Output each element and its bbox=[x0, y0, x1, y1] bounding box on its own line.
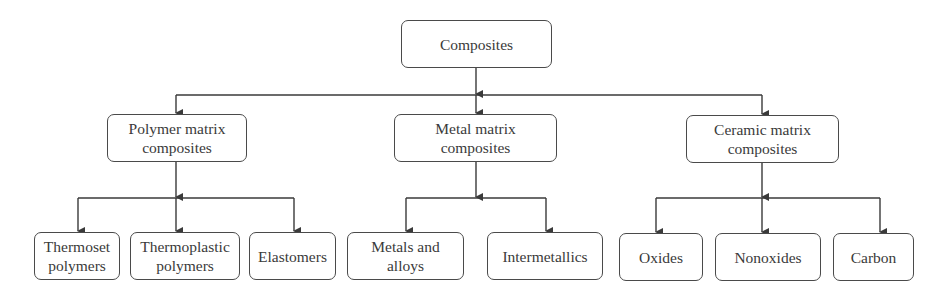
leaf-carbon: Carbon bbox=[833, 233, 914, 281]
leaf-label: Thermoset polymers bbox=[44, 237, 110, 275]
leaf-intermetallics: Intermetallics bbox=[487, 232, 603, 280]
leaf-label: Oxides bbox=[639, 248, 683, 267]
node-polymer-matrix-composites: Polymer matrix composites bbox=[107, 114, 247, 162]
node-metal-matrix-composites: Metal matrix composites bbox=[394, 114, 557, 162]
leaf-label: Carbon bbox=[851, 248, 897, 267]
root-node-label: Composites bbox=[440, 35, 513, 54]
leaf-label: Nonoxides bbox=[734, 248, 801, 267]
node-label: Ceramic matrix composites bbox=[714, 120, 811, 158]
node-label: Metal matrix composites bbox=[435, 119, 516, 157]
leaf-thermoplastic-polymers: Thermoplastic polymers bbox=[130, 232, 240, 280]
leaf-label: Intermetallics bbox=[502, 247, 587, 266]
leaf-metals-and-alloys: Metals and alloys bbox=[347, 232, 464, 280]
node-label: Polymer matrix composites bbox=[129, 119, 226, 157]
leaf-label: Elastomers bbox=[258, 247, 327, 266]
leaf-label: Metals and alloys bbox=[371, 237, 439, 275]
node-ceramic-matrix-composites: Ceramic matrix composites bbox=[686, 115, 839, 163]
leaf-nonoxides: Nonoxides bbox=[715, 233, 821, 281]
leaf-thermoset-polymers: Thermoset polymers bbox=[34, 232, 120, 280]
leaf-elastomers: Elastomers bbox=[249, 232, 336, 280]
leaf-oxides: Oxides bbox=[619, 233, 703, 281]
leaf-label: Thermoplastic polymers bbox=[140, 237, 230, 275]
root-node-composites: Composites bbox=[401, 20, 552, 68]
